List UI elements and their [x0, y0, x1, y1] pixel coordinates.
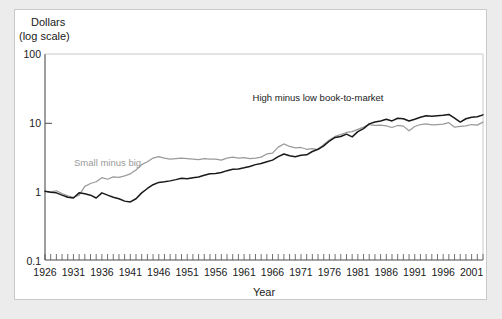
line-chart: Dollars (log scale) 100 10 1 0.1 1926193…: [15, 10, 486, 299]
x-tick-label: 1986: [375, 266, 399, 278]
x-tick-label: 1966: [261, 266, 285, 278]
x-tick-label: 1971: [289, 266, 313, 278]
x-tick-label: 2001: [460, 266, 484, 278]
x-tick-label: 1976: [318, 266, 342, 278]
x-tick-label: 1931: [62, 266, 86, 278]
x-tick-label: 1936: [90, 266, 114, 278]
x-tick-label: 1961: [232, 266, 256, 278]
x-tick-label: 1926: [33, 266, 57, 278]
x-tick-label: 1996: [432, 266, 456, 278]
x-tick-label: 1991: [403, 266, 427, 278]
y-tick-label: 10: [29, 117, 41, 129]
series-label-high-minus-low: High minus low book-to-market: [253, 92, 384, 103]
x-axis-title: Year: [253, 286, 276, 298]
y-axis-title-line2: (log scale): [19, 30, 70, 42]
x-tick-label: 1956: [204, 266, 228, 278]
y-tick-label: 1: [35, 186, 41, 198]
chart-figure: Dollars (log scale) 100 10 1 0.1 1926193…: [14, 9, 487, 300]
x-tick-label: 1951: [176, 266, 200, 278]
y-axis-title-line1: Dollars: [31, 16, 66, 28]
y-tick-label: 100: [23, 48, 41, 60]
x-axis-tick-labels: 1926193119361941194619511956196119661971…: [33, 266, 483, 278]
x-tick-label: 1946: [147, 266, 171, 278]
y-axis-ticks: 100 10 1 0.1: [23, 48, 52, 267]
x-tick-label: 1941: [119, 266, 143, 278]
x-axis-minor-ticks: [45, 254, 483, 260]
series-label-small-minus-big: Small minus big: [74, 157, 141, 168]
x-tick-label: 1981: [346, 266, 370, 278]
